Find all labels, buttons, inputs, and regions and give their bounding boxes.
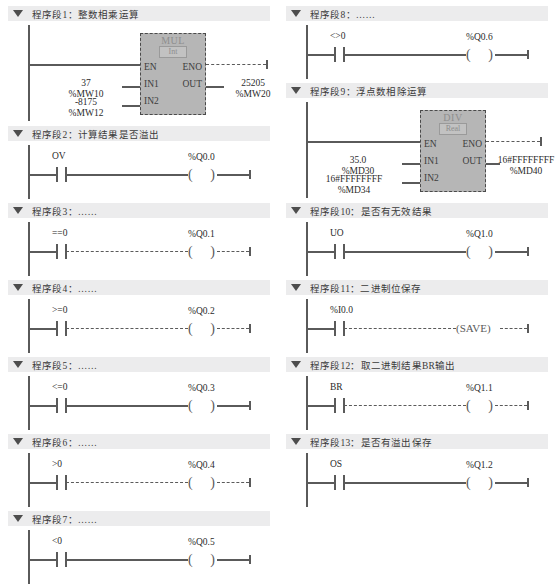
collapse-triangle-icon[interactable] [13, 284, 23, 291]
network-12: 程序段12：取二进制结果BR输出 BR %Q1.1 ( ) [278, 357, 556, 434]
network-header[interactable]: 程序段2：计算结果是否溢出 [8, 126, 270, 141]
div-block[interactable]: DIV Real EN ENO IN1 OUT IN2 [420, 110, 486, 192]
block-eno: ENO [182, 62, 202, 72]
save-coil[interactable]: (SAVE) [456, 321, 491, 336]
wire-coil-to-end [495, 54, 527, 56]
wire-coil-to-end [217, 559, 249, 561]
rung: MUL Int EN ENO IN1 OUT IN2 [0, 21, 278, 126]
wire-rail-to-contact [28, 174, 56, 176]
wire-rail-to-contact [306, 328, 334, 330]
in2-operand[interactable]: -8175 %MW12 [52, 97, 120, 119]
wire-in2 [122, 105, 140, 107]
wire-rail-to-contact [28, 405, 56, 407]
network-header[interactable]: 程序段9：浮点数相除运算 [286, 83, 548, 98]
collapse-triangle-icon[interactable] [13, 130, 23, 137]
collapse-triangle-icon[interactable] [291, 87, 301, 94]
network-title: 程序段11：二进制位保存 [310, 281, 422, 295]
rung-end-tick [527, 401, 529, 410]
collapse-triangle-icon[interactable] [13, 361, 23, 368]
network-header[interactable]: 程序段12：取二进制结果BR输出 [286, 357, 548, 372]
power-rail [28, 145, 30, 199]
collapse-triangle-icon[interactable] [13, 515, 23, 522]
wire-contact-to-coil [66, 559, 188, 561]
wire-coil-to-end [495, 405, 527, 406]
wire-coil-to-end [495, 251, 527, 253]
network-3: 程序段3：…… ==0 %Q0.1 ( ) [0, 203, 278, 280]
network-header[interactable]: 程序段5：…… [8, 357, 270, 372]
wire-coil-to-end [500, 328, 527, 329]
network-13: 程序段13：是否有溢出保存 OS %Q1.2 ( ) [278, 434, 556, 511]
coil-label: %Q1.1 [466, 381, 493, 396]
wire-contact-to-coil [344, 251, 466, 253]
network-header[interactable]: 程序段6：…… [8, 434, 270, 449]
collapse-triangle-icon[interactable] [291, 10, 301, 17]
rung-end-tick [249, 478, 251, 487]
in2-value: -8175 [75, 97, 97, 107]
network-header[interactable]: 程序段3：…… [8, 203, 270, 218]
network-header[interactable]: 程序段8：…… [286, 6, 548, 21]
power-rail [28, 453, 30, 507]
wire-rail-to-contact [28, 251, 56, 253]
power-rail [306, 376, 308, 430]
block-out: OUT [182, 79, 202, 89]
rung-end-tick [249, 170, 251, 179]
rung: <=0 %Q0.3 ( ) [0, 372, 278, 434]
network-header[interactable]: 程序段7：…… [8, 511, 270, 526]
wire-contact-to-coil [344, 54, 466, 56]
network-11: 程序段11：二进制位保存 %I0.0 (SAVE) [278, 280, 556, 357]
contact-label: <>0 [330, 31, 345, 41]
rung: OV %Q0.0 ( ) [0, 141, 278, 203]
collapse-triangle-icon[interactable] [291, 207, 301, 214]
wire-rail-to-contact [306, 482, 334, 484]
contact-label: <=0 [52, 382, 67, 392]
network-header[interactable]: 程序段4：…… [8, 280, 270, 295]
wire-in1 [122, 86, 140, 88]
wire-contact-to-coil [66, 405, 188, 407]
out-operand[interactable]: 16#FFFFFFFF %MD40 [496, 155, 556, 177]
rung-end-tick [527, 247, 529, 256]
wire-eno-out [206, 64, 266, 65]
rung-end-tick [540, 137, 542, 146]
power-rail [28, 25, 30, 121]
wire-eno-out [486, 141, 540, 142]
network-header[interactable]: 程序段10：是否有无效结果 [286, 203, 548, 218]
network-title: 程序段3：…… [32, 204, 97, 218]
out-operand[interactable]: 25205 %MW20 [222, 78, 284, 100]
rung-end-tick [527, 324, 529, 333]
contact-label: >=0 [52, 305, 67, 315]
network-header[interactable]: 程序段13：是否有溢出保存 [286, 434, 548, 449]
collapse-triangle-icon[interactable] [13, 10, 23, 17]
network-4: 程序段4：…… >=0 %Q0.2 ( ) [0, 280, 278, 357]
coil-label: %Q0.4 [188, 458, 215, 473]
in2-operand[interactable]: 16#FFFFFFFF %MD34 [308, 174, 400, 196]
network-title: 程序段5：…… [32, 358, 97, 372]
wire-contact-to-coil [66, 251, 188, 252]
collapse-triangle-icon[interactable] [291, 438, 301, 445]
rung: %I0.0 (SAVE) [278, 295, 556, 357]
block-en: EN [424, 139, 437, 149]
wire-contact-to-coil [66, 328, 188, 329]
network-title: 程序段6：…… [32, 435, 97, 449]
power-rail [28, 530, 30, 584]
network-title: 程序段9：浮点数相除运算 [310, 84, 427, 98]
network-header[interactable]: 程序段11：二进制位保存 [286, 280, 548, 295]
network-title: 程序段13：是否有溢出保存 [310, 435, 432, 449]
collapse-triangle-icon[interactable] [291, 361, 301, 368]
rung: DIV Real EN ENO IN1 OUT IN2 [278, 98, 556, 203]
save-coil-label: (SAVE) [456, 322, 491, 334]
right-column: 程序段8：…… <>0 %Q0.6 ( ) [278, 0, 556, 567]
network-8: 程序段8：…… <>0 %Q0.6 ( ) [278, 6, 556, 83]
power-rail [306, 453, 308, 507]
contact-label: OS [330, 459, 342, 469]
collapse-triangle-icon[interactable] [291, 284, 301, 291]
collapse-triangle-icon[interactable] [13, 207, 23, 214]
network-header[interactable]: 程序段1：整数相乘运算 [8, 6, 270, 21]
rung: BR %Q1.1 ( ) [278, 372, 556, 434]
rung: ==0 %Q0.1 ( ) [0, 218, 278, 280]
wire-rail-to-en [306, 141, 420, 143]
wire-coil-to-end [217, 482, 249, 483]
collapse-triangle-icon[interactable] [13, 438, 23, 445]
contact-label: %I0.0 [330, 305, 353, 315]
mul-block[interactable]: MUL Int EN ENO IN1 OUT IN2 [140, 33, 206, 115]
